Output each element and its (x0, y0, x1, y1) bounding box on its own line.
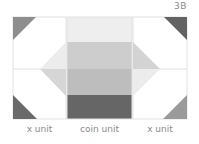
coin-stripe-1 (67, 17, 132, 42)
quilt-diagram (0, 0, 199, 144)
coin-stripe-4 (67, 95, 132, 119)
left-x-unit-caption: x unit (13, 124, 66, 134)
coin-unit (67, 17, 132, 119)
coin-stripe-3 (67, 69, 132, 95)
coin-unit-caption: coin unit (67, 124, 132, 134)
left-x-unit (13, 17, 66, 119)
coin-stripe-2 (67, 42, 132, 69)
right-x-unit-caption: x unit (133, 124, 187, 134)
right-x-unit (133, 17, 187, 119)
